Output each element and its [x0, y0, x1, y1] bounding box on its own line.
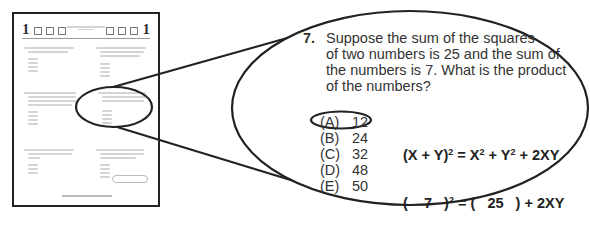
choice-d[interactable]: (D)48 — [320, 162, 368, 178]
question-7: 7. Suppose the sum of the squares of two… — [303, 30, 576, 94]
work-line-1: (X + Y)2 = X2 + Y2 + 2XY — [403, 147, 564, 163]
choice-c[interactable]: (C)32 — [320, 146, 368, 162]
choice-b[interactable]: (B)24 — [320, 130, 368, 146]
work-line-2: ( 7 )2 = ( 25 ) + 2XY — [403, 195, 564, 211]
choice-a[interactable]: (A)12 — [320, 114, 368, 130]
question-number: 7. — [303, 30, 315, 46]
question-text: Suppose the sum of the squares of two nu… — [326, 30, 576, 94]
worked-solution: (X + Y)2 = X2 + Y2 + 2XY ( 7 )2 = ( 25 )… — [403, 115, 564, 215]
choice-e[interactable]: (E)50 — [320, 178, 368, 194]
answer-choices: (A)12 (B)24 (C)32 (D)48 (E)50 — [320, 114, 368, 194]
small-highlight-ellipse — [76, 87, 152, 127]
